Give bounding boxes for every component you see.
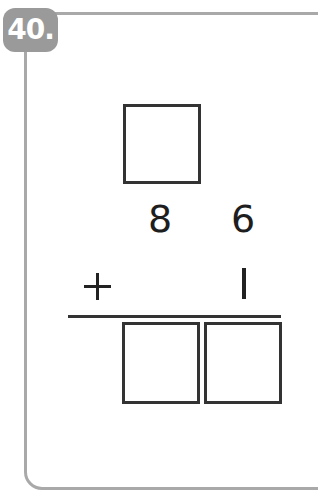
problem-card-frame <box>24 12 318 490</box>
sum-tens-box[interactable] <box>122 322 200 404</box>
addend1-tens-digit: 8 <box>148 200 172 238</box>
plus-vertical-stroke <box>96 273 99 300</box>
sum-ones-box[interactable] <box>204 322 282 404</box>
addend2-ones-digit <box>242 268 246 299</box>
sum-line <box>68 315 281 318</box>
problem-number-badge: 40. <box>3 8 58 52</box>
addend1-ones-digit: 6 <box>231 200 255 238</box>
carry-answer-box[interactable] <box>123 104 201 184</box>
